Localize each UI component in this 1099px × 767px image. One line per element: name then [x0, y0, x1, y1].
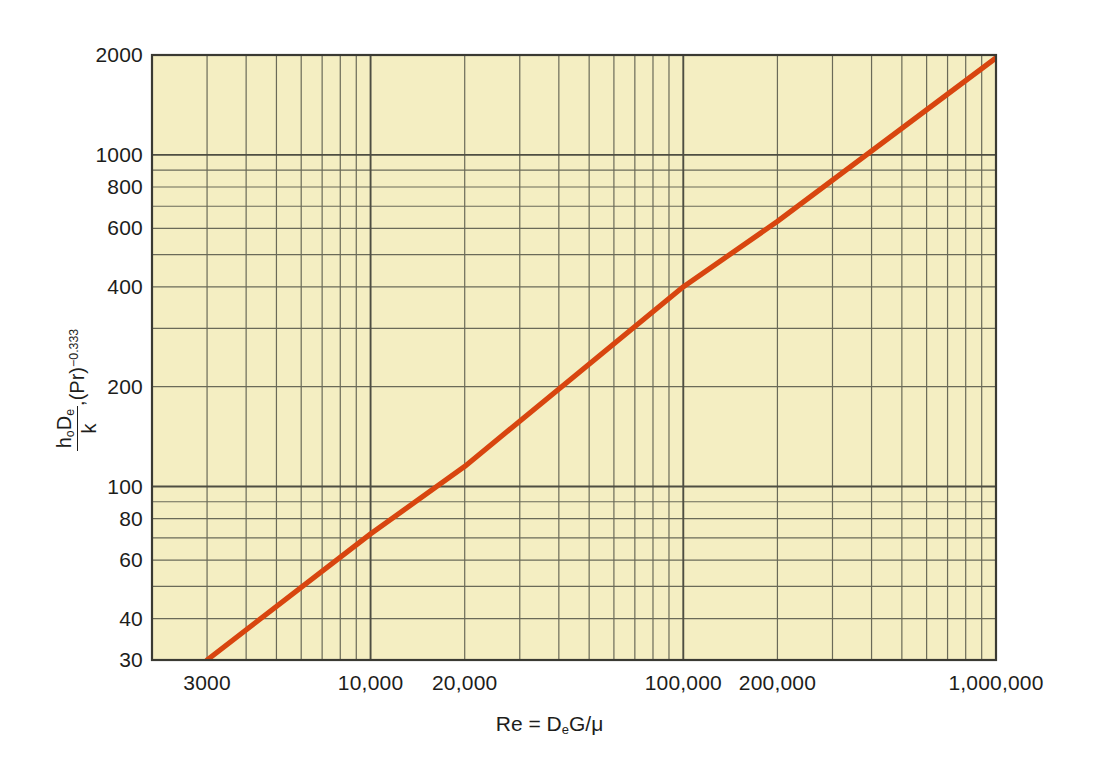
y-num-d: D: [53, 416, 75, 430]
y-num-h: h: [53, 437, 75, 448]
chart-figure: 3040608010020040060080010002000 300010,0…: [0, 0, 1099, 767]
y-tick-label: 30: [0, 648, 143, 672]
x-title-sub: e: [562, 722, 569, 737]
x-tick-label: 10,000: [338, 671, 403, 695]
y-num-d-sub: e: [63, 409, 77, 416]
y-tick-label: 1000: [0, 143, 143, 167]
x-tick-label: 1,000,000: [948, 671, 1043, 695]
y-tick-label: 60: [0, 548, 143, 572]
y-axis-title: hoDe k ,(Pr)−0.333: [54, 290, 99, 490]
x-title-mu: μ: [591, 712, 603, 735]
y-axis-exponent: −0.333: [66, 329, 80, 367]
x-tick-label: 20,000: [432, 671, 497, 695]
x-tick-label: 100,000: [645, 671, 722, 695]
x-tick-label: 200,000: [739, 671, 816, 695]
x-tick-label: 3000: [183, 671, 231, 695]
y-axis-numerator: hoDe: [54, 406, 78, 451]
x-title-prefix: Re = D: [496, 712, 562, 735]
y-axis-denominator: k: [78, 406, 99, 451]
x-title-mid: G/: [569, 712, 591, 735]
x-axis-title: Re = DeG/μ: [0, 712, 1099, 737]
log-log-plot: [0, 0, 1099, 767]
y-tick-label: 600: [0, 216, 143, 240]
y-tick-label: 800: [0, 175, 143, 199]
y-axis-fraction: hoDe k: [54, 406, 99, 451]
y-num-h-sub: o: [63, 430, 77, 437]
y-tick-label: 40: [0, 607, 143, 631]
y-tick-label: 80: [0, 507, 143, 531]
y-tick-label: 2000: [0, 43, 143, 67]
y-axis-suffix-text: ,(Pr): [66, 367, 88, 406]
plot-area-background: [152, 55, 996, 660]
y-axis-suffix: ,(Pr)−0.333: [67, 329, 87, 406]
